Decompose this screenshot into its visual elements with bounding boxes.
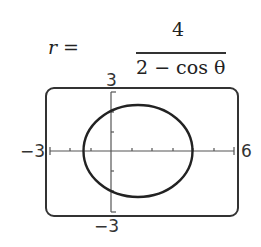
graph-window: 3 −3 6 −3 [0,0,261,247]
ymax-label: 3 [106,70,117,90]
xmin-label: −3 [20,141,45,161]
x-axis [50,147,234,155]
xmax-label: 6 [241,141,252,161]
ymin-label: −3 [94,216,119,236]
